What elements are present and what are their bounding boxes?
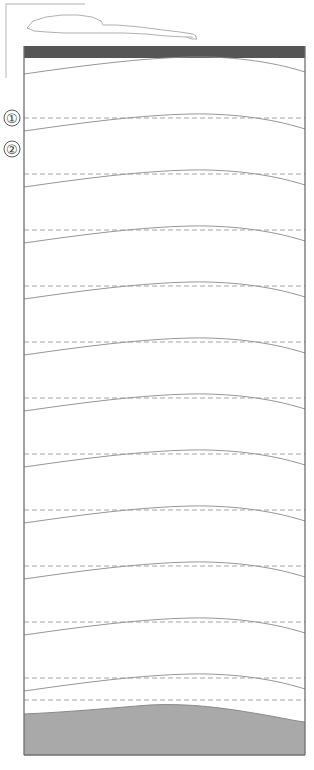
section-interior [24, 46, 305, 755]
section-body [24, 46, 305, 755]
stratigraphic-figure: ① ② [0, 0, 314, 770]
marker-2[interactable]: ② [4, 141, 20, 157]
cross-section-svg: ① ② [0, 0, 314, 770]
marker-1-label: ① [6, 111, 18, 126]
marker-2-label: ② [6, 142, 18, 157]
marker-1[interactable]: ① [4, 110, 20, 126]
cap-bar [24, 46, 305, 58]
